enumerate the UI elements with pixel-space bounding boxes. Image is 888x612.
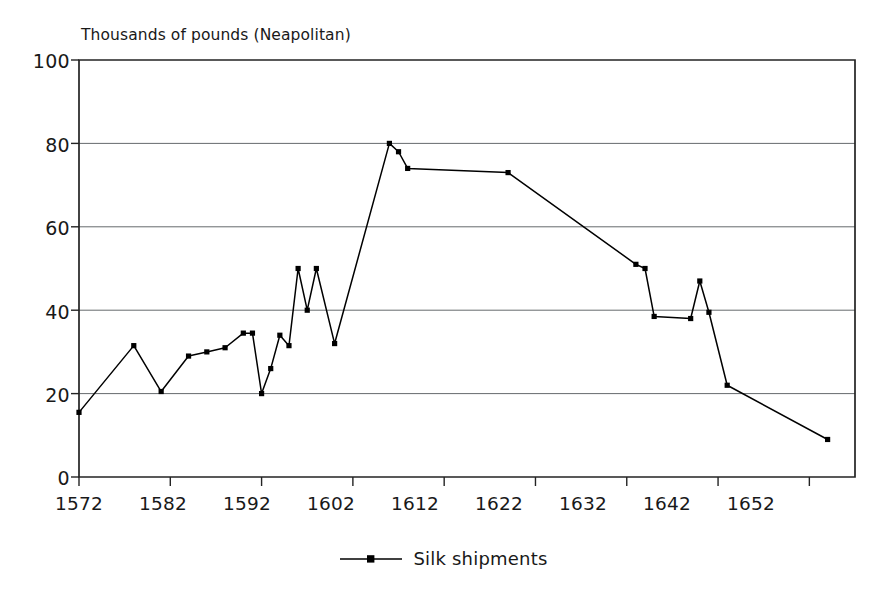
x-axis-ticks	[79, 477, 809, 486]
gridlines	[79, 143, 855, 393]
chart-legend: Silk shipments	[0, 548, 888, 569]
axis-frame	[79, 60, 855, 477]
legend-marker-icon	[340, 552, 402, 566]
plot-area	[0, 0, 888, 612]
series-silk-shipments	[76, 141, 830, 442]
chart-figure: Thousands of pounds (Neapolitan) 100 80 …	[0, 0, 888, 612]
legend-label-silk-shipments: Silk shipments	[413, 548, 547, 569]
